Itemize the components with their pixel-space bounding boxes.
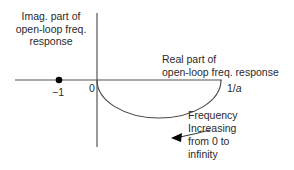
direction-note-line: Frequency — [188, 109, 238, 122]
intercept-label-var: a — [236, 82, 242, 94]
imag-axis-label-line: response — [8, 35, 94, 48]
origin-label: 0 — [89, 82, 95, 95]
direction-note-line: from 0 to — [188, 135, 238, 148]
intercept-label-prefix: 1/ — [227, 82, 236, 94]
direction-arrow-head-icon — [171, 133, 182, 142]
critical-point-label: −1 — [52, 86, 64, 99]
real-axis-label-line: open-loop freq. response — [162, 66, 279, 79]
imag-axis-label-line: Imag. part of — [8, 10, 94, 23]
imag-axis-label-line: open-loop freq. — [8, 23, 94, 36]
real-axis-label-line: Real part of — [162, 53, 279, 66]
direction-note-line: Increasing — [188, 122, 238, 135]
imag-axis-label: Imag. part of open-loop freq. response — [8, 10, 94, 48]
direction-note: Frequency Increasing from 0 to infinity — [188, 109, 238, 161]
direction-note-line: infinity — [188, 148, 238, 161]
intercept-label: 1/a — [227, 82, 242, 95]
critical-point-marker — [56, 77, 63, 84]
real-axis-label: Real part of open-loop freq. response — [162, 53, 279, 78]
